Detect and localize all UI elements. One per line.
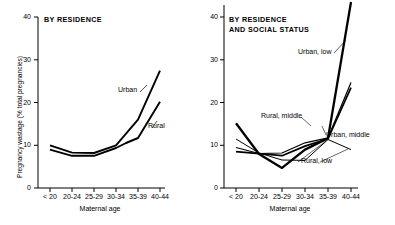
right-annotation-rural-middle: Rural, middle [261,112,302,119]
left-ytick-40: 40 [12,13,31,20]
left-x-ticks [50,188,160,192]
right-rural-middle-leader [301,117,311,126]
right-ytick-0: 0 [199,184,218,191]
left-x-axis-title: Maternal age [40,205,160,212]
left-series-rural [50,102,160,156]
right-ytick-40: 40 [199,13,218,20]
left-panel-title: BY RESIDENCE [44,15,102,25]
left-annotation-rural: Rural [148,122,165,129]
right-x-axis-title: Maternal age [230,205,350,212]
right-ytick-20: 20 [199,99,218,106]
right-annotation-urban-low: Urban, low [298,48,331,55]
left-urban-leader [140,85,147,92]
figure-root: 40 30 20 10 0 < 20 20-24 25-29 30-34 35-… [0,0,395,225]
left-xtick-40-44: 40-44 [146,193,174,200]
left-panel-plot [0,0,198,225]
right-annotation-urban-middle: Urban, middle [326,131,370,138]
left-series-urban [50,71,160,153]
left-y-axis-title: Pregnancy wastage (% total pregnancies) [16,56,23,178]
left-annotation-urban: Urban [118,86,137,93]
right-ytick-30: 30 [199,56,218,63]
right-xtick-40-44: 40-44 [337,193,365,200]
right-y-ticks [220,17,224,188]
right-annotation-rural-low: Rural, low [301,157,332,164]
left-y-ticks [34,17,38,188]
left-ytick-0: 0 [12,184,31,191]
right-series-rural-low [236,139,351,160]
right-x-ticks [236,188,351,192]
chart-panel-by-residence: 40 30 20 10 0 < 20 20-24 25-29 30-34 35-… [0,0,198,225]
chart-panel-by-residence-and-social-status: 40 30 20 10 0 < 20 20-24 25-29 30-34 35-… [198,0,395,225]
right-panel-title: BY RESIDENCE AND SOCIAL STATUS [229,15,309,34]
right-ytick-10: 10 [199,141,218,148]
